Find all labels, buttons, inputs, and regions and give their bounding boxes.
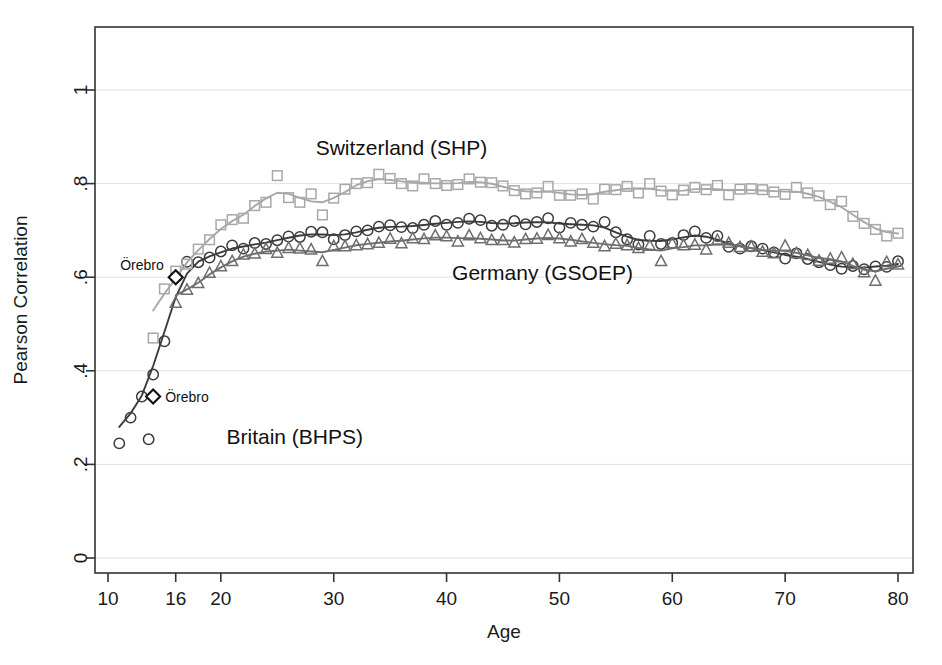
y-tick-label: .2: [70, 456, 91, 472]
series-label-britain-bhps: Britain (BHPS): [227, 425, 364, 448]
y-axis-title: Pearson Correlation: [10, 216, 31, 385]
x-tick-label: 50: [549, 588, 570, 609]
figure-container: 0.2.4.6.81 101620304050607080 ÖrebroÖreb…: [0, 0, 942, 665]
x-tick-label: 80: [887, 588, 908, 609]
annotation-label-orebro: Örebro: [165, 388, 209, 405]
x-axis-title: Age: [487, 621, 521, 642]
x-tick-label: 30: [323, 588, 344, 609]
y-tick-label: 1: [70, 85, 91, 96]
x-tick-label: 20: [210, 588, 231, 609]
series-label-germany-gsoep: Germany (GSOEP): [452, 261, 633, 284]
figure-background: [0, 0, 942, 665]
x-tick-label: 16: [165, 588, 186, 609]
x-tick-label: 10: [97, 588, 118, 609]
x-tick-label: 70: [775, 588, 796, 609]
x-tick-label: 60: [662, 588, 683, 609]
pearson-correlation-by-age-chart: 0.2.4.6.81 101620304050607080 ÖrebroÖreb…: [0, 0, 942, 665]
y-tick-label: .6: [70, 269, 91, 285]
y-tick-label: 0: [70, 553, 91, 564]
y-tick-label: .8: [70, 176, 91, 192]
y-tick-label: .4: [70, 362, 91, 378]
annotation-label-orebro: Örebro: [120, 256, 164, 273]
x-tick-label: 40: [436, 588, 457, 609]
series-label-switzerland-shp: Switzerland (SHP): [316, 136, 488, 159]
